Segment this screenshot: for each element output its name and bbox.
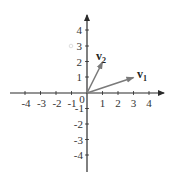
x-tick-label: 3 bbox=[131, 97, 137, 109]
x-tick-label: 4 bbox=[146, 97, 152, 109]
vector-diagram: -4 -3 -2 -1 1 2 3 4 0 4 3 2 1 -1 -2 -3 -… bbox=[0, 0, 175, 181]
x-tick-label: -2 bbox=[52, 97, 61, 109]
plot-svg: -4 -3 -2 -1 1 2 3 4 0 4 3 2 1 -1 -2 -3 -… bbox=[0, 0, 175, 181]
vector-v1-label: v1 bbox=[137, 67, 147, 83]
x-tick-label: -4 bbox=[21, 97, 31, 109]
y-tick-label: 1 bbox=[77, 71, 83, 83]
y-tick-label: 4 bbox=[77, 24, 83, 36]
y-tick-label: 3 bbox=[77, 40, 83, 52]
x-tick-label: 1 bbox=[100, 97, 106, 109]
x-tick-label: 2 bbox=[115, 97, 121, 109]
y-tick-label: -2 bbox=[74, 118, 83, 130]
x-tick-label: -3 bbox=[37, 97, 47, 109]
artifact-dot bbox=[69, 44, 73, 48]
y-tick-label: -3 bbox=[74, 134, 84, 146]
vector-v2-label: v2 bbox=[96, 49, 106, 65]
y-tick-label: 2 bbox=[77, 56, 83, 68]
y-tick-label: -1 bbox=[75, 102, 84, 114]
y-tick-label: -4 bbox=[74, 149, 84, 161]
